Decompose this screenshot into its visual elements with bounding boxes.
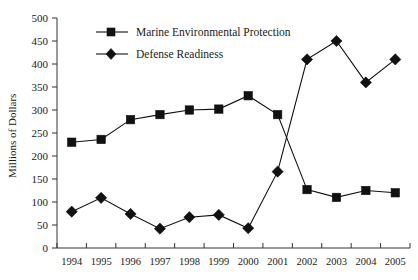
data-point-diamond-marker xyxy=(96,192,107,203)
chart-container: Millions of Dollars 0 50 100 150 200 250… xyxy=(0,0,418,280)
y-tick-label: 0 xyxy=(43,242,49,254)
data-point-square-marker xyxy=(97,135,105,143)
legend-item-defense[interactable]: Defense Readiness xyxy=(96,48,224,60)
data-point-diamond-marker xyxy=(184,212,195,223)
series-line xyxy=(72,96,396,198)
data-point-square-marker xyxy=(273,110,281,118)
x-tick-label: 2004 xyxy=(355,256,377,267)
x-tick-label: 1998 xyxy=(179,256,200,267)
legend-label-defense: Defense Readiness xyxy=(136,48,224,60)
series-line xyxy=(72,41,396,229)
y-tick-label: 400 xyxy=(32,58,49,70)
data-point-diamond-marker xyxy=(390,54,401,65)
x-tick-label: 2001 xyxy=(267,256,288,267)
data-point-diamond-marker xyxy=(243,223,254,234)
x-tick-label: 1999 xyxy=(208,256,229,267)
data-point-diamond-marker xyxy=(331,35,342,46)
x-axis-ticks xyxy=(57,243,410,248)
data-point-diamond-marker xyxy=(360,77,371,88)
y-axis-title: Millions of Dollars xyxy=(6,94,18,178)
y-tick-label: 350 xyxy=(32,81,49,93)
y-tick-label: 50 xyxy=(37,219,49,231)
data-point-square-marker xyxy=(156,110,164,118)
x-tick-label: 1994 xyxy=(61,256,83,267)
data-point-square-marker xyxy=(391,189,399,197)
x-tick-label: 1997 xyxy=(149,256,170,267)
y-tick-label: 450 xyxy=(32,35,49,47)
data-point-diamond-marker xyxy=(213,209,224,220)
y-tick-label: 100 xyxy=(32,196,49,208)
data-point-diamond-marker xyxy=(125,208,136,219)
legend-diamond-marker-icon xyxy=(106,49,116,60)
series-1 xyxy=(68,92,400,202)
y-tick-label: 250 xyxy=(32,127,49,139)
y-tick-label: 200 xyxy=(32,150,49,162)
series-2 xyxy=(66,35,401,234)
x-axis-labels: 1994199519961997199819992000200120022003… xyxy=(61,256,406,267)
y-axis-ticks: 0 50 100 150 200 250 300 350 400 450 500 xyxy=(32,12,58,254)
data-point-diamond-marker xyxy=(301,54,312,65)
x-tick-label: 2002 xyxy=(297,256,318,267)
chart-legend: Marine Environmental Protection Defense … xyxy=(96,26,291,60)
y-axis-title-text: Millions of Dollars xyxy=(6,94,18,178)
data-point-diamond-marker xyxy=(66,206,77,217)
series-layer xyxy=(66,35,401,234)
legend-square-marker-icon xyxy=(107,28,115,36)
legend-label-marine: Marine Environmental Protection xyxy=(136,26,291,38)
data-point-square-marker xyxy=(332,193,340,201)
x-tick-label: 1996 xyxy=(120,256,141,267)
x-tick-label: 1995 xyxy=(91,256,112,267)
data-point-square-marker xyxy=(244,92,252,100)
x-tick-label: 2003 xyxy=(326,256,347,267)
y-tick-label: 300 xyxy=(32,104,49,116)
x-tick-label: 2005 xyxy=(385,256,406,267)
data-point-diamond-marker xyxy=(272,166,283,177)
line-chart: Millions of Dollars 0 50 100 150 200 250… xyxy=(0,0,418,280)
data-point-square-marker xyxy=(185,106,193,114)
data-point-diamond-marker xyxy=(154,223,165,234)
data-point-square-marker xyxy=(126,115,134,123)
y-tick-label: 500 xyxy=(32,12,49,24)
data-point-square-marker xyxy=(215,105,223,113)
data-point-square-marker xyxy=(68,138,76,146)
legend-item-marine[interactable]: Marine Environmental Protection xyxy=(96,26,291,38)
data-point-square-marker xyxy=(303,185,311,193)
y-tick-label: 150 xyxy=(32,173,49,185)
data-point-square-marker xyxy=(362,186,370,194)
x-tick-label: 2000 xyxy=(238,256,259,267)
